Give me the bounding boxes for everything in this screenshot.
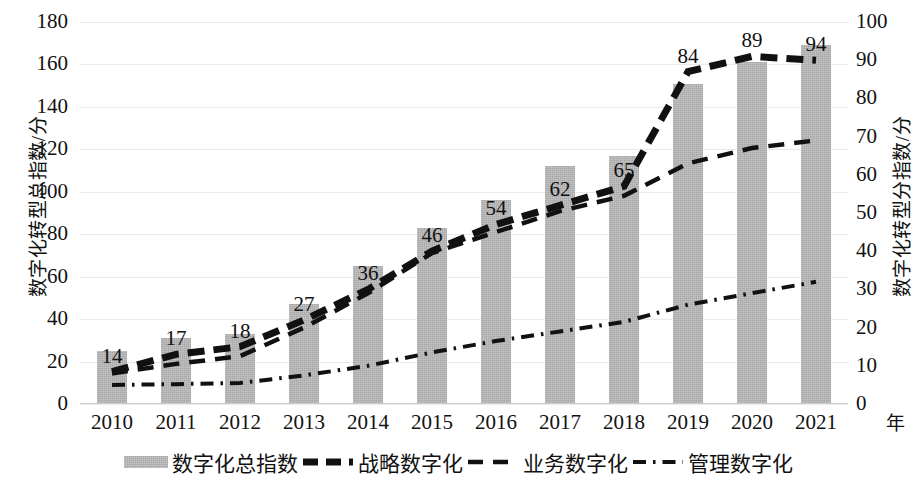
x-axis-tick-label: 2015 <box>398 410 466 435</box>
x-axis-tick-label: 2012 <box>206 410 274 435</box>
y-axis-right-tick-label: 100 <box>856 11 916 32</box>
legend-item-label: 业务数字化 <box>523 447 628 477</box>
y-axis-right-tick-label: 70 <box>856 126 916 147</box>
legend-line-swatch-icon <box>302 454 354 470</box>
x-axis-tick-label: 2014 <box>334 410 402 435</box>
legend-item-label: 战略数字化 <box>358 447 463 477</box>
x-axis-tick-label: 2020 <box>718 410 786 435</box>
x-axis-tick-label: 2019 <box>654 410 722 435</box>
legend-line-swatch-icon <box>467 454 519 470</box>
y-axis-right-tick-label: 0 <box>856 393 916 414</box>
y-axis-right-tick-label: 40 <box>856 240 916 261</box>
y-axis-right-tick-label: 80 <box>856 87 916 108</box>
gridline <box>80 404 848 405</box>
x-axis-tick-label: 2021 <box>782 410 850 435</box>
legend-item[interactable]: 数字化总指数 <box>124 447 298 477</box>
y-axis-right-ticks: 0102030405060708090100 <box>856 0 916 480</box>
y-axis-left-ticks: 020406080100120140160180 <box>10 0 68 480</box>
y-axis-left-tick-label: 180 <box>10 11 68 32</box>
y-axis-left-tick-label: 120 <box>10 138 68 159</box>
line-series-path <box>112 56 816 371</box>
y-axis-left-tick-label: 40 <box>10 308 68 329</box>
y-axis-left-tick-label: 0 <box>10 393 68 414</box>
y-axis-right-tick-label: 30 <box>856 278 916 299</box>
y-axis-left-tick-label: 100 <box>10 181 68 202</box>
x-axis-line <box>80 403 848 405</box>
chart-figure: 数字化转型总指数/分 数字化转型分指数/分 年 0204060801001201… <box>0 0 920 480</box>
line-series-path <box>112 282 816 385</box>
plot-area: 141718273646546265848994 <box>80 22 848 404</box>
x-axis-tick-label: 2010 <box>78 410 146 435</box>
line-series <box>80 22 848 404</box>
x-axis-tick-label: 2017 <box>526 410 594 435</box>
y-axis-right-tick-label: 90 <box>856 49 916 70</box>
chart-legend: 数字化总指数战略数字化业务数字化管理数字化 <box>0 447 920 477</box>
y-axis-left-tick-label: 80 <box>10 223 68 244</box>
line-series-path <box>112 140 816 373</box>
y-axis-right-tick-label: 50 <box>856 202 916 223</box>
legend-item-label: 数字化总指数 <box>172 447 298 477</box>
legend-line-swatch-icon <box>632 454 684 470</box>
y-axis-left-tick-label: 140 <box>10 96 68 117</box>
y-axis-right-tick-label: 20 <box>856 317 916 338</box>
y-axis-right-tick-label: 10 <box>856 355 916 376</box>
y-axis-right-tick-label: 60 <box>856 164 916 185</box>
legend-item[interactable]: 管理数字化 <box>632 447 793 477</box>
legend-item[interactable]: 战略数字化 <box>302 447 463 477</box>
x-axis-tick-label: 2011 <box>142 410 210 435</box>
legend-item[interactable]: 业务数字化 <box>467 447 628 477</box>
legend-item-label: 管理数字化 <box>688 447 793 477</box>
x-axis-tick-label: 2013 <box>270 410 338 435</box>
y-axis-left-tick-label: 160 <box>10 53 68 74</box>
legend-bar-swatch-icon <box>124 456 168 468</box>
y-axis-left-tick-label: 20 <box>10 351 68 372</box>
x-axis-tick-label: 2018 <box>590 410 658 435</box>
x-axis-tick-label: 2016 <box>462 410 530 435</box>
y-axis-left-tick-label: 60 <box>10 266 68 287</box>
